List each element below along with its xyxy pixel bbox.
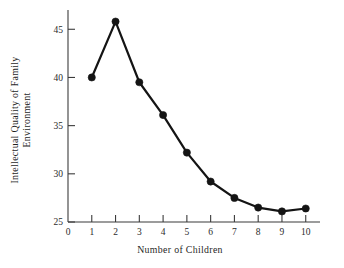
- x-tick-label: 6: [208, 227, 213, 237]
- y-tick-label: 30: [54, 169, 64, 179]
- x-tick-label: 4: [161, 227, 166, 237]
- data-point-marker: [255, 204, 262, 211]
- y-axis-ticks: 2530354045: [54, 25, 76, 228]
- data-point-marker: [88, 74, 95, 81]
- x-tick-label: 2: [113, 227, 118, 237]
- data-point-marker: [302, 205, 309, 212]
- data-point-marker: [231, 194, 238, 201]
- x-tick-label: 3: [137, 227, 142, 237]
- x-tick-label: 10: [301, 227, 311, 237]
- x-tick-label: 0: [66, 227, 71, 237]
- chart-figure: 012345678910 2530354045 Number of Childr…: [0, 0, 344, 268]
- x-tick-label: 8: [256, 227, 261, 237]
- x-axis-ticks: 012345678910: [66, 215, 311, 237]
- x-tick-label: 5: [184, 227, 189, 237]
- data-series: [88, 18, 309, 215]
- data-point-marker: [207, 178, 214, 185]
- line-chart: 012345678910 2530354045 Number of Childr…: [0, 0, 344, 268]
- data-point-marker: [159, 111, 166, 118]
- y-axis-title-line: Intellectual Quality of Family: [9, 56, 20, 183]
- y-tick-label: 45: [54, 25, 64, 35]
- x-tick-label: 7: [232, 227, 237, 237]
- series-polyline: [92, 22, 306, 212]
- data-point-marker: [278, 208, 285, 215]
- x-tick-label: 1: [89, 227, 94, 237]
- x-axis-title: Number of Children: [137, 244, 223, 255]
- y-tick-label: 25: [54, 217, 64, 227]
- data-point-marker: [112, 18, 119, 25]
- data-point-marker: [183, 149, 190, 156]
- y-axis-title-line: Environment: [21, 92, 32, 147]
- x-tick-label: 9: [280, 227, 285, 237]
- y-tick-label: 35: [54, 121, 64, 131]
- data-point-marker: [136, 79, 143, 86]
- y-tick-label: 40: [54, 73, 64, 83]
